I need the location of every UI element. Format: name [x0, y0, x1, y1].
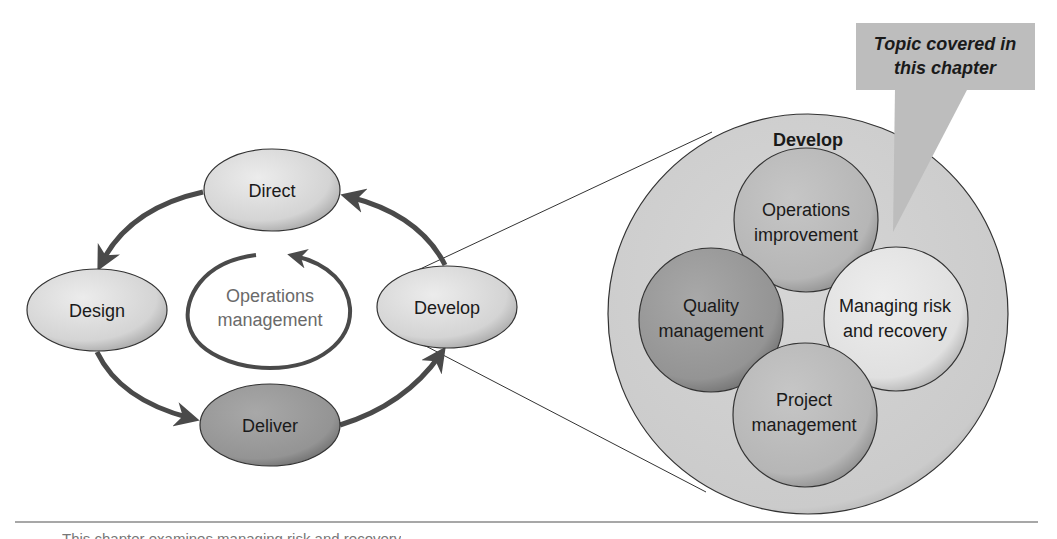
callout-line1: Topic covered in [874, 34, 1016, 54]
node-deliver[interactable]: Deliver [200, 384, 340, 466]
svg-text:Project: Project [776, 390, 832, 410]
figure-caption: This chapter examines managing risk and … [62, 527, 401, 539]
circle-project-management[interactable]: Project management [733, 343, 877, 487]
arrow-deliver-to-develop [340, 355, 440, 425]
svg-text:management: management [658, 321, 763, 341]
svg-text:Deliver: Deliver [242, 416, 298, 436]
svg-text:Quality: Quality [683, 296, 739, 316]
svg-text:and recovery: and recovery [843, 321, 947, 341]
node-direct[interactable]: Direct [204, 149, 340, 231]
svg-text:management: management [751, 415, 856, 435]
node-design[interactable]: Design [27, 269, 167, 351]
node-develop[interactable]: Develop [377, 266, 517, 348]
svg-text:Develop: Develop [414, 298, 480, 318]
arrow-direct-to-design [102, 192, 203, 262]
center-label-line1: Operations [226, 286, 314, 306]
svg-text:Direct: Direct [248, 181, 295, 201]
callout-box: Topic covered in this chapter [856, 23, 1035, 90]
svg-text:improvement: improvement [754, 225, 858, 245]
callout-line2: this chapter [894, 58, 997, 78]
svg-text:Managing risk: Managing risk [839, 296, 952, 316]
operations-diagram: Operations management Direct Design Deli… [0, 0, 1057, 539]
arrow-develop-to-direct [350, 197, 445, 265]
svg-text:Operations: Operations [762, 200, 850, 220]
develop-detail-title: Develop [773, 130, 843, 150]
center-label-line2: management [217, 310, 322, 330]
svg-text:Design: Design [69, 301, 125, 321]
arrow-design-to-deliver [97, 352, 190, 418]
